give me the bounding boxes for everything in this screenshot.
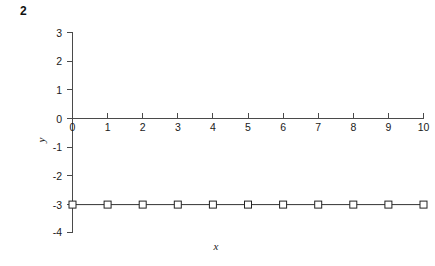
figure-container: 2 bbox=[0, 0, 435, 266]
y-tick-label: 0 bbox=[56, 113, 62, 125]
data-point-marker bbox=[385, 201, 392, 208]
y-axis-title: y bbox=[35, 137, 47, 143]
x-tick-label: 9 bbox=[385, 121, 391, 133]
data-point-marker bbox=[350, 201, 357, 208]
data-point-marker bbox=[420, 201, 427, 208]
x-tick-label: 3 bbox=[175, 121, 181, 133]
data-point-marker bbox=[174, 201, 181, 208]
y-tick-label: 3 bbox=[56, 27, 62, 39]
x-tick-label: 4 bbox=[210, 121, 216, 133]
y-tick-label: -3 bbox=[53, 199, 62, 211]
data-point-marker bbox=[209, 201, 216, 208]
x-axis-title: x bbox=[213, 240, 219, 252]
x-tick-label: 5 bbox=[245, 121, 251, 133]
data-point-marker bbox=[139, 201, 146, 208]
x-tick-label: 7 bbox=[315, 121, 321, 133]
x-tick-label: 10 bbox=[418, 121, 430, 133]
y-tick-label: -2 bbox=[53, 170, 62, 182]
data-point-marker bbox=[280, 201, 287, 208]
x-tick-label: 1 bbox=[105, 121, 111, 133]
line-chart: 3 2 1 0 -1 -2 -3 -4 0 1 2 3 4 5 6 7 8 9 … bbox=[0, 0, 435, 266]
data-point-marker bbox=[315, 201, 322, 208]
data-point-marker bbox=[245, 201, 252, 208]
x-axis-tick-labels: 0 1 2 3 4 5 6 7 8 9 10 bbox=[70, 121, 430, 133]
x-axis-ticks bbox=[73, 113, 424, 119]
x-tick-label: 2 bbox=[140, 121, 146, 133]
y-tick-label: -1 bbox=[53, 141, 62, 153]
x-tick-label: 6 bbox=[280, 121, 286, 133]
data-point-marker bbox=[104, 201, 111, 208]
y-tick-label: -4 bbox=[53, 226, 62, 238]
x-tick-label: 8 bbox=[350, 121, 356, 133]
x-tick-label: 0 bbox=[70, 121, 76, 133]
y-tick-label: 1 bbox=[56, 84, 62, 96]
y-tick-label: 2 bbox=[56, 55, 62, 67]
data-point-marker bbox=[69, 201, 76, 208]
y-axis-tick-labels: 3 2 1 0 -1 -2 -3 -4 bbox=[53, 27, 63, 239]
